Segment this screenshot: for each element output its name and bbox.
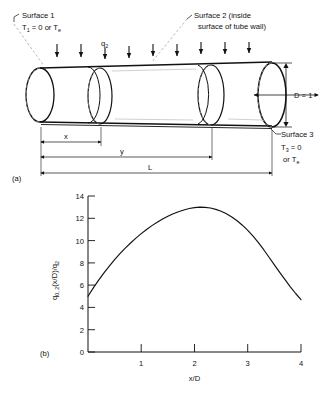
dimension-y: y <box>41 147 212 157</box>
y-tick-label: 14 <box>76 192 84 201</box>
tube-body <box>26 62 286 129</box>
surface2-leader-line <box>152 19 187 62</box>
dim-x-label: x <box>64 132 68 141</box>
y-tick-label: 10 <box>76 237 84 246</box>
x-tick-label: 4 <box>299 359 303 368</box>
heat-flux-label: q2 <box>101 39 108 49</box>
surface3-condition-line1: T3 = 0 <box>281 143 302 153</box>
panel-b-caption: (b) <box>40 349 50 358</box>
surface3-callout: Surface 3 T3 = 0 or Te <box>270 128 314 165</box>
surface3-label: Surface 3 <box>281 130 314 139</box>
panel-b-chart: 0 2 4 6 8 10 12 14 1 2 3 4 q0, 2(x/D)/q2… <box>40 192 303 383</box>
tube-ring-x-hidden <box>88 68 100 124</box>
surface1-callout: Surface 1 T1 = 0 or Te <box>14 11 61 66</box>
length-dimensions: x y L <box>41 127 272 176</box>
y-tick-label: 8 <box>80 259 84 268</box>
heat-flux-arrows <box>57 42 249 59</box>
dim-L-label: L <box>148 163 152 172</box>
y-tick-label: 0 <box>80 348 84 357</box>
diameter-dimension: D = 1 <box>254 63 318 127</box>
surface1-condition: T1 = 0 or Te <box>22 23 61 33</box>
x-tick-label: 2 <box>192 359 196 368</box>
chart-y-ticks: 0 2 4 6 8 10 12 14 <box>76 192 95 357</box>
tube-interior-line-bottom <box>115 119 193 120</box>
figure-container: Surface 1 T1 = 0 or Te Surface 2 (inside… <box>0 0 329 394</box>
figure-svg: Surface 1 T1 = 0 or Te Surface 2 (inside… <box>0 0 329 394</box>
diameter-arrowhead-top <box>283 63 288 68</box>
y-tick-label: 2 <box>80 326 84 335</box>
diameter-arrowhead-bottom <box>283 122 288 127</box>
surface3-condition-line2: or Te <box>283 155 299 165</box>
panel-a-diagram: Surface 1 T1 = 0 or Te Surface 2 (inside… <box>12 11 318 183</box>
y-tick-label: 6 <box>80 281 84 290</box>
surface1-label: Surface 1 <box>22 11 55 20</box>
y-tick-label: 12 <box>76 214 84 223</box>
tube-left-hidden-arc <box>26 68 40 122</box>
tube-ring-x-second <box>88 67 100 123</box>
chart-y-axis-label: q0, 2(x/D)/q2 <box>50 261 60 300</box>
surface2-label-line2: surface of tube wall) <box>198 22 266 31</box>
tube-interior-line-top <box>112 69 196 71</box>
tube-top-edge <box>40 62 272 68</box>
surface2-label-line1: Surface 2 (inside <box>194 11 251 20</box>
x-tick-label: 1 <box>139 359 143 368</box>
panel-a-caption: (a) <box>12 174 22 183</box>
tube-ring-y-second <box>198 65 209 124</box>
surface2-callout: Surface 2 (inside surface of tube wall) <box>152 11 266 62</box>
dimension-x: x <box>41 132 101 142</box>
x-tick-label: 3 <box>246 359 250 368</box>
dimension-L: L <box>41 163 272 173</box>
chart-x-ticks: 1 2 3 4 <box>139 344 303 368</box>
surface2-leader-hook <box>187 15 192 19</box>
tube-interior-line-right <box>228 119 262 120</box>
diameter-label: D = 1 <box>294 91 312 100</box>
chart-x-axis-label: x/D <box>189 374 201 383</box>
surface1-leader-hook <box>14 14 19 22</box>
chart-data-curve <box>88 207 301 299</box>
y-tick-label: 4 <box>80 303 84 312</box>
dim-y-label: y <box>120 147 124 156</box>
